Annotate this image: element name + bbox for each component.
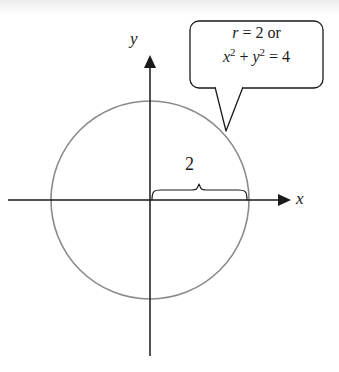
brace-label: 2 [185,155,194,173]
x-axis-label: x [296,190,304,207]
x-axis-arrowhead [278,194,291,206]
callout-content: r = 2 or x2 + y2 = 4 [190,24,323,66]
callout-x-variable: x [223,48,230,65]
callout-r-equals: = 2 [238,24,267,41]
y-axis-label: y [130,30,138,47]
callout-conjunction: or [267,24,280,41]
callout-equation-polar: r = 2 or [190,24,323,42]
callout-equation-cartesian: x2 + y2 = 4 [190,46,323,66]
y-axis-arrowhead [144,55,156,68]
callout-y-variable: y [253,48,260,65]
callout-equals-four: = 4 [265,48,290,65]
measurement-brace [152,184,247,200]
callout-plus: + [235,48,252,65]
polar-circle-figure: y x 2 r = 2 or x2 + y2 = 4 [0,0,339,372]
